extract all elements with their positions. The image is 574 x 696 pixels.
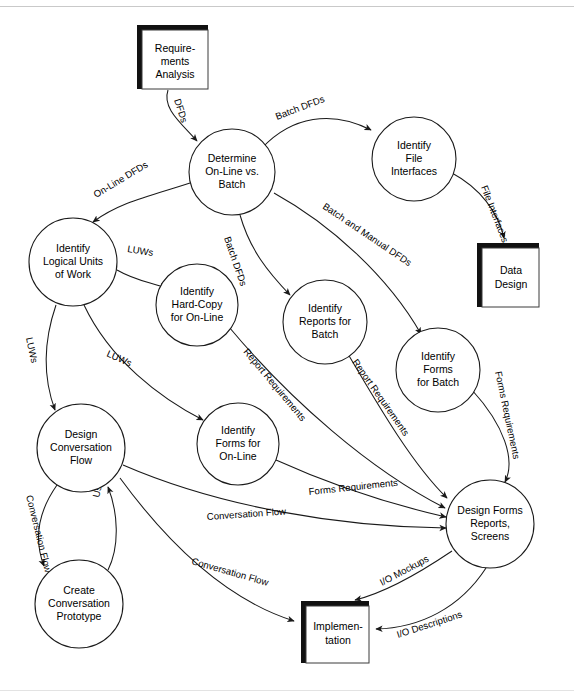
flow-label-f12: Forms Requirements [493, 370, 522, 460]
process-label-design-forms-line2: Reports, [470, 517, 510, 529]
process-label-forms-batch-line3: for Batch [417, 376, 459, 388]
store-shadow-top-datadesign [477, 243, 539, 248]
flow-label-f4: File Interfaces [479, 184, 511, 244]
process-label-forms-online-line1: Identify [221, 424, 256, 436]
store-label-requirements-line3: Analysis [155, 68, 194, 80]
process-label-design-conversation-line1: Design [65, 428, 98, 440]
process-label-determine-line1: Determine [208, 152, 257, 164]
store-implementation[interactable]: Implemen- tation [301, 601, 369, 663]
flow-label-f13: Forms Requirements [308, 477, 398, 497]
flow-path-luws-hardcopy [117, 270, 166, 288]
process-label-reports-batch-line1: Identify [308, 302, 343, 314]
flow-label-f8: LUWs [24, 336, 40, 364]
store-shadow-left-implementation [301, 601, 306, 663]
store-shadow-left-datadesign [477, 243, 482, 307]
process-label-design-forms-line3: Screens [471, 530, 510, 542]
store-label-implementation-line2: tation [325, 634, 351, 646]
process-label-reports-batch-line2: Reports for [299, 315, 351, 327]
process-identify-forms-for-batch[interactable]: Identify Forms for Batch [396, 328, 480, 412]
flow-label-f7: LUWs [127, 243, 155, 258]
flow-label-f9: LUWs [105, 348, 134, 369]
process-label-create-prototype-line1: Create [63, 584, 95, 596]
process-label-hard-copy-line1: Identify [180, 285, 215, 297]
process-label-forms-batch-line2: Forms [423, 363, 453, 375]
process-label-file-interfaces-line2: File [406, 152, 423, 164]
store-label-requirements-line2: ments [161, 55, 190, 67]
store-data-design[interactable]: Data Design [477, 243, 539, 307]
store-label-implementation-line1: Implemen- [313, 620, 363, 632]
flow-path-batch-dfds-file [262, 118, 371, 148]
process-create-conversation-prototype[interactable]: Create Conversation Prototype [35, 560, 123, 648]
flow-label-f19: I/O Descriptions [395, 608, 463, 640]
process-label-create-prototype-line3: Prototype [57, 610, 102, 622]
process-label-design-conversation-line2: Conversation [50, 441, 112, 453]
store-label-requirements-line1: Require- [155, 42, 196, 54]
process-label-file-interfaces-line1: Identify [397, 139, 432, 151]
process-identify-hard-copy-for-online[interactable]: Identify Hard-Copy for On-Line [156, 264, 238, 346]
process-label-design-conversation-line3: Flow [70, 454, 93, 466]
flow-path-user-feedback [108, 487, 116, 570]
process-label-create-prototype-line2: Conversation [48, 597, 110, 609]
process-identify-reports-for-batch[interactable]: Identify Reports for Batch [283, 280, 367, 364]
process-identify-file-interfaces[interactable]: Identify File Interfaces [372, 117, 456, 201]
data-flow-diagram-canvas: DFDs Batch DFDs On-Line DFDs File Interf… [0, 0, 574, 696]
process-label-logical-units-line3: of Work [55, 268, 92, 280]
flow-label-f3: On-Line DFDs [91, 159, 149, 200]
process-label-forms-online-line3: On-Line [219, 450, 257, 462]
process-label-reports-batch-line3: Batch [312, 328, 339, 340]
flow-label-f15: Conversation Flow [24, 494, 54, 574]
flow-path-conversation-flow-designforms [123, 465, 446, 528]
store-requirements-analysis[interactable]: Require- ments Analysis [137, 25, 208, 89]
process-label-hard-copy-line3: for On-Line [171, 311, 224, 323]
diagram-svg: DFDs Batch DFDs On-Line DFDs File Interf… [0, 0, 574, 696]
process-determine-online-vs-batch[interactable]: Determine On-Line vs. Batch [189, 129, 275, 215]
process-label-design-forms-line1: Design Forms [457, 504, 522, 516]
process-label-determine-line2: On-Line vs. [205, 165, 259, 177]
store-label-datadesign-line2: Design [495, 278, 528, 290]
process-label-hard-copy-line2: Hard-Copy [172, 298, 224, 310]
process-label-determine-line3: Batch [219, 178, 246, 190]
flow-path-luws-conversation [46, 305, 56, 410]
flow-label-f17: Conversation Flow [190, 555, 269, 587]
store-shadow-top-requirements [137, 25, 208, 30]
process-identify-forms-for-online[interactable]: Identify Forms for On-Line [197, 403, 279, 485]
store-shadow-left-requirements [137, 25, 142, 89]
flow-path-conversation-flow-implementation [120, 478, 294, 621]
process-label-file-interfaces-line3: Interfaces [391, 165, 437, 177]
flow-label-f2: Batch DFDs [274, 93, 326, 122]
process-label-logical-units-line1: Identify [56, 242, 91, 254]
process-design-conversation-flow[interactable]: Design Conversation Flow [37, 404, 125, 492]
flow-label-f14: Conversation Flow [206, 505, 286, 522]
process-label-forms-online-line2: Forms for [216, 437, 261, 449]
flow-label-f1: DFDs [172, 97, 190, 124]
store-shadow-top-implementation [301, 601, 369, 606]
store-label-datadesign-line1: Data [500, 264, 522, 276]
process-label-logical-units-line2: Logical Units [43, 255, 103, 267]
process-identify-logical-units-of-work[interactable]: Identify Logical Units of Work [29, 218, 117, 306]
process-design-forms-reports-screens[interactable]: Design Forms Reports, Screens [446, 480, 534, 568]
process-label-forms-batch-line1: Identify [421, 350, 456, 362]
